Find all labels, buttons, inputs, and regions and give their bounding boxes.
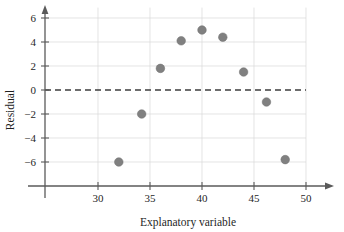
- y-axis-arrowhead: [42, 5, 49, 14]
- data-point: [239, 68, 248, 77]
- x-tick-label-30: 30: [93, 192, 105, 204]
- data-point: [198, 26, 207, 35]
- y-tick-label-0: 0: [31, 84, 37, 96]
- data-point: [262, 98, 271, 107]
- plot-canvas: −6−4−20246 3035404550 Explanatory variab…: [0, 0, 344, 232]
- data-point: [115, 158, 124, 167]
- data-point: [281, 155, 290, 164]
- y-tick-label--2: −2: [24, 108, 36, 120]
- x-tick-label-50: 50: [301, 192, 313, 204]
- data-point: [177, 37, 186, 46]
- y-tick-label--4: −4: [24, 132, 36, 144]
- y-tick-label-6: 6: [31, 12, 37, 24]
- x-axis: [28, 182, 334, 190]
- y-axis-title: Residual: [4, 90, 16, 130]
- y-tick-label-2: 2: [31, 60, 37, 72]
- y-tick-label-4: 4: [31, 36, 37, 48]
- x-axis-tick-labels: 3035404550: [93, 192, 313, 204]
- data-point: [156, 64, 165, 73]
- data-point: [137, 110, 146, 119]
- x-tick-label-40: 40: [197, 192, 209, 204]
- y-axis: [41, 5, 49, 198]
- x-axis-arrowhead: [325, 183, 334, 190]
- x-tick-label-35: 35: [145, 192, 157, 204]
- x-tick-label-45: 45: [249, 192, 261, 204]
- data-point: [219, 33, 228, 42]
- y-axis-tick-labels: −6−4−20246: [24, 12, 36, 168]
- x-axis-title: Explanatory variable: [140, 216, 236, 229]
- y-tick-label--6: −6: [24, 156, 36, 168]
- residual-scatter-plot-figure: −6−4−20246 3035404550 Explanatory variab…: [0, 0, 344, 232]
